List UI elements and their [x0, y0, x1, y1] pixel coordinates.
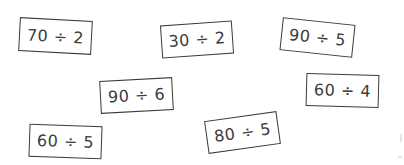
division-card-30-div-2: 30 ÷ 2	[160, 21, 234, 59]
division-card-90-div-6: 90 ÷ 6	[99, 77, 174, 114]
expression-text: 60 ÷ 5	[37, 131, 95, 152]
expression-text: 90 ÷ 5	[288, 25, 347, 50]
division-card-90-div-5: 90 ÷ 5	[279, 17, 355, 57]
edge-artifact-mark	[400, 134, 402, 142]
expression-text: 80 ÷ 5	[213, 119, 272, 146]
division-card-60-div-5: 60 ÷ 5	[28, 124, 102, 160]
division-card-60-div-4: 60 ÷ 4	[306, 73, 380, 108]
expression-text: 60 ÷ 4	[314, 80, 372, 100]
expression-text: 70 ÷ 2	[26, 25, 84, 47]
division-card-70-div-2: 70 ÷ 2	[18, 17, 93, 55]
edge-artifact-mark	[398, 156, 402, 158]
division-card-80-div-5: 80 ÷ 5	[204, 111, 281, 154]
expression-text: 90 ÷ 6	[107, 85, 165, 107]
expression-text: 30 ÷ 2	[168, 28, 226, 51]
